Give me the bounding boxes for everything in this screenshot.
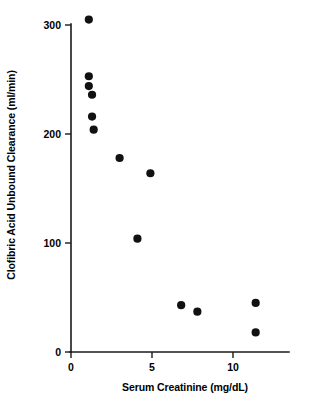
data-point xyxy=(133,235,141,243)
y-tick-label-0: 0 xyxy=(55,346,61,358)
x-tick-label-5: 5 xyxy=(149,361,155,373)
data-point xyxy=(252,299,260,307)
y-tick-label-200: 200 xyxy=(43,128,61,140)
data-point xyxy=(252,328,260,336)
data-point xyxy=(146,169,154,177)
data-point xyxy=(193,308,201,316)
data-point xyxy=(88,112,96,120)
y-tick-label-300: 300 xyxy=(43,19,61,31)
data-point xyxy=(85,82,93,90)
data-point xyxy=(88,91,96,99)
y-tick-label-100: 100 xyxy=(43,237,61,249)
data-point xyxy=(85,15,93,23)
scatter-plot-figure: Clofibric Acid Unbound Clearance (ml/min… xyxy=(0,0,318,415)
data-point xyxy=(85,72,93,80)
data-point xyxy=(177,301,185,309)
x-tick-label-10: 10 xyxy=(227,361,239,373)
data-points-group xyxy=(85,15,260,336)
data-point xyxy=(90,126,98,134)
x-tick-label-0: 0 xyxy=(68,361,74,373)
data-point xyxy=(116,154,124,162)
plot-area: 0 100 200 300 0 5 10 xyxy=(0,0,318,415)
